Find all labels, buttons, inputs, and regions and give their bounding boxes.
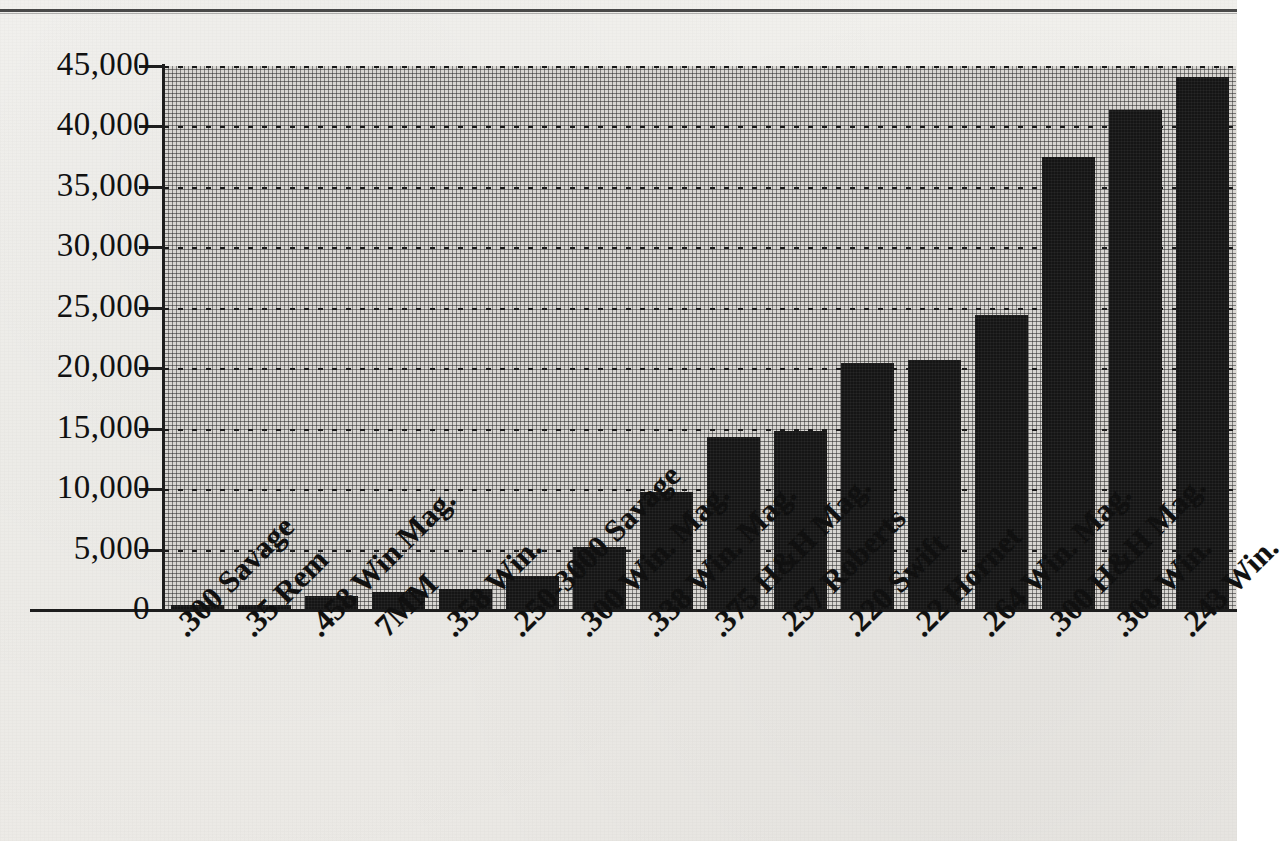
bar [1176,77,1230,610]
y-axis-label: 40,000 [57,108,150,141]
y-axis-label: 45,000 [57,48,150,81]
y-axis-label: 15,000 [57,411,150,444]
y-axis-label: 20,000 [57,350,150,383]
y-axis-label: 10,000 [57,471,150,504]
gridline-45000 [164,66,1236,68]
y-axis-label: 30,000 [57,229,150,262]
y-axis-label: 35,000 [57,169,150,202]
y-axis-label: 25,000 [57,290,150,323]
y-axis-line [162,64,165,612]
gridline-40000 [164,126,1236,128]
y-axis-label: 5,000 [74,532,150,565]
y-axis-label: 0 [133,592,150,625]
